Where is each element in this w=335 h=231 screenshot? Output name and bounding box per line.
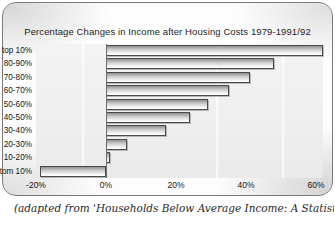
- bar-20-30-: [106, 139, 127, 150]
- y-axis-tick-label: bottom 10%: [0, 165, 32, 178]
- bar-40-50-: [106, 112, 190, 123]
- y-axis-tick-label: top 10%: [2, 44, 32, 57]
- x-axis-tick-label: 0%: [100, 180, 112, 190]
- y-axis-tick-label: 20-30%: [4, 138, 32, 151]
- x-axis-labels: -20%0%20%40%60%: [0, 180, 335, 194]
- bar-row: [36, 138, 323, 151]
- y-axis-labels: top 10%80-90%70-80%60-70%50-60%40-50%30-…: [0, 44, 34, 178]
- y-axis-tick-label: 80-90%: [4, 57, 32, 70]
- bar-60-70-: [106, 85, 229, 96]
- x-axis-tick-label: -20%: [26, 180, 46, 190]
- bar-30-40-: [106, 125, 166, 136]
- x-axis-tick-label: 20%: [167, 180, 184, 190]
- figure-root: Percentage Changes in Income after Housi…: [0, 0, 335, 231]
- bar-row: [36, 124, 323, 137]
- bar-row: [36, 165, 323, 178]
- y-axis-tick-label: 70-80%: [4, 71, 32, 84]
- bar-row: [36, 44, 323, 57]
- x-axis-tick-label: 40%: [237, 180, 254, 190]
- y-axis-tick-label: 40-50%: [4, 111, 32, 124]
- bar-70-80-: [106, 72, 250, 83]
- bar-row: [36, 111, 323, 124]
- bar-series: [36, 44, 323, 178]
- bar-row: [36, 84, 323, 97]
- bar-80-90-: [106, 58, 274, 69]
- bar-row: [36, 98, 323, 111]
- bar-row: [36, 151, 323, 164]
- bar-top-10-: [106, 45, 323, 56]
- bar-row: [36, 57, 323, 70]
- y-axis-tick-label: 10-20%: [4, 151, 32, 164]
- bar-row: [36, 71, 323, 84]
- zero-axis-line: [106, 44, 107, 178]
- y-axis-tick-label: 60-70%: [4, 84, 32, 97]
- bar-50-60-: [106, 99, 208, 110]
- x-axis-tick-label: 60%: [307, 180, 324, 190]
- bar-bottom-10-: [40, 166, 107, 177]
- plot-area: [36, 44, 323, 178]
- y-axis-tick-label: 50-60%: [4, 98, 32, 111]
- figure-caption: (adapted from 'Households Below Average …: [14, 202, 334, 214]
- y-axis-tick-label: 30-40%: [4, 124, 32, 137]
- chart-title: Percentage Changes in Income after Housi…: [0, 26, 335, 37]
